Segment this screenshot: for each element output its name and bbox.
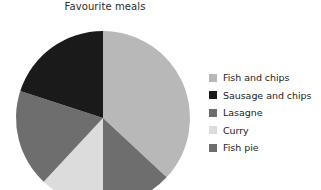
pie-chart-screenshot: Favourite meals Fish and chips Sausage a… <box>0 0 321 190</box>
legend-label: Fish pie <box>223 142 259 153</box>
pie-slice-group <box>16 31 190 190</box>
legend-swatch-icon <box>209 91 217 99</box>
pie-chart-plot-area <box>0 0 210 190</box>
legend-item-lasagne[interactable]: Lasagne <box>209 104 321 122</box>
legend-label: Lasagne <box>223 107 262 118</box>
chart-legend: Fish and chips Sausage and chips Lasagne… <box>209 69 321 157</box>
legend-swatch-icon <box>209 126 217 134</box>
legend-swatch-icon <box>209 109 217 117</box>
legend-label: Sausage and chips <box>223 90 311 101</box>
legend-label: Fish and chips <box>223 72 289 83</box>
legend-item-fish-pie[interactable]: Fish pie <box>209 139 321 157</box>
legend-swatch-icon <box>209 74 217 82</box>
legend-item-sausage-and-chips[interactable]: Sausage and chips <box>209 87 321 105</box>
legend-item-curry[interactable]: Curry <box>209 122 321 140</box>
pie-chart-svg <box>0 0 210 190</box>
legend-label: Curry <box>223 125 249 136</box>
legend-item-fish-and-chips[interactable]: Fish and chips <box>209 69 321 87</box>
legend-swatch-icon <box>209 144 217 152</box>
